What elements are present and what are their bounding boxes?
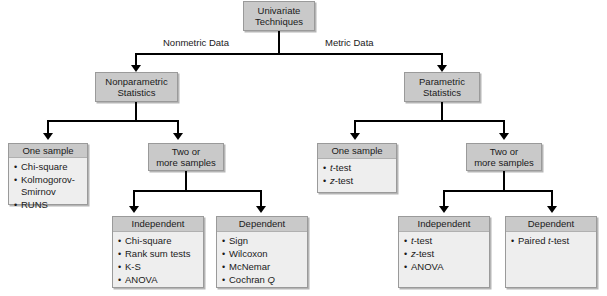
node-nonparametric-statistics-label: Nonparametric Statistics	[96, 73, 177, 101]
arrow-to-np-dependent	[256, 206, 266, 213]
node-nonparametric-statistics: Nonparametric Statistics	[95, 72, 178, 102]
arrow-to-p-two-or-more	[499, 133, 509, 140]
list-item: Sign	[222, 235, 307, 247]
list-item: Chi-square	[14, 161, 87, 173]
list-item: Paired t-test	[511, 235, 596, 247]
edge-label-metric-data: Metric Data	[325, 37, 374, 48]
box-parametric-independent: Independent t-test z-test ANOVA	[398, 216, 490, 288]
box-nonparametric-one-sample-items: Chi-square Kolmogorov- Smirnov RUNS	[9, 158, 87, 212]
box-parametric-independent-items: t-test z-test ANOVA	[399, 232, 489, 274]
list-item: Kolmogorov- Smirnov	[14, 174, 87, 198]
node-parametric-statistics: Parametric Statistics	[404, 72, 480, 102]
arrow-to-p-dependent	[547, 206, 557, 213]
box-parametric-independent-title: Independent	[399, 217, 489, 232]
box-parametric-one-sample-title: One sample	[318, 144, 396, 159]
list-item: Rank sum tests	[118, 248, 203, 260]
box-nonparametric-dependent: Dependent Sign Wilcoxon McNemar Cochran …	[216, 216, 308, 288]
list-item: K-S	[118, 261, 203, 273]
arrow-to-parametric	[437, 65, 447, 72]
arrow-to-p-independent	[439, 206, 449, 213]
node-univariate-techniques: Univariate Techniques	[243, 1, 315, 31]
box-parametric-dependent-items: Paired t-test	[506, 232, 596, 248]
arrow-to-np-two-or-more	[173, 133, 183, 140]
node-parametric-statistics-label: Parametric Statistics	[405, 73, 479, 101]
box-nonparametric-two-or-more-title: Two or more samples	[149, 144, 223, 170]
connector-nonparametric-split-bar	[47, 120, 179, 122]
connector-nonparametric-stem	[135, 102, 137, 121]
list-item: z-test	[404, 248, 489, 260]
box-nonparametric-independent: Independent Chi-square Rank sum tests K-…	[112, 216, 204, 288]
list-item: t-test	[323, 162, 396, 174]
arrow-to-np-one-sample	[43, 133, 53, 140]
list-item: t-test	[404, 235, 489, 247]
list-item: RUNS	[14, 199, 87, 211]
list-item: McNemar	[222, 261, 307, 273]
arrow-to-nonparametric	[131, 65, 141, 72]
connector-np-twoormore-stem	[185, 171, 187, 192]
box-nonparametric-one-sample: One sample Chi-square Kolmogorov- Smirno…	[8, 143, 88, 205]
list-item: ANOVA	[118, 274, 203, 286]
connector-np-twoormore-split-bar	[133, 190, 262, 192]
box-nonparametric-one-sample-title: One sample	[9, 144, 87, 158]
box-nonparametric-independent-items: Chi-square Rank sum tests K-S ANOVA	[113, 232, 203, 287]
connector-root-stem	[278, 31, 280, 54]
box-nonparametric-dependent-items: Sign Wilcoxon McNemar Cochran Q	[217, 232, 307, 287]
connector-parametric-split-bar	[354, 120, 505, 122]
box-parametric-two-or-more: Two or more samples	[466, 143, 542, 171]
edge-label-nonmetric-data: Nonmetric Data	[163, 37, 229, 48]
box-parametric-two-or-more-title: Two or more samples	[467, 144, 541, 170]
list-item: Cochran Q	[222, 274, 307, 286]
list-item: Wilcoxon	[222, 248, 307, 260]
connector-top-split-bar	[135, 53, 443, 55]
box-nonparametric-dependent-title: Dependent	[217, 217, 307, 232]
box-parametric-one-sample: One sample t-test z-test	[317, 143, 397, 193]
connector-parametric-stem	[441, 102, 443, 121]
box-parametric-one-sample-items: t-test z-test	[318, 159, 396, 188]
list-item: Chi-square	[118, 235, 203, 247]
arrow-to-p-one-sample	[350, 133, 360, 140]
list-item: z-test	[323, 175, 396, 187]
box-parametric-dependent: Dependent Paired t-test	[505, 216, 597, 288]
list-item: ANOVA	[404, 261, 489, 273]
node-univariate-techniques-label: Univariate Techniques	[244, 2, 314, 30]
box-nonparametric-two-or-more: Two or more samples	[148, 143, 224, 171]
box-parametric-dependent-title: Dependent	[506, 217, 596, 232]
arrow-to-np-independent	[129, 206, 139, 213]
box-nonparametric-independent-title: Independent	[113, 217, 203, 232]
connector-p-twoormore-stem	[503, 171, 505, 192]
univariate-techniques-diagram: Univariate Techniques Nonmetric Data Met…	[0, 0, 607, 296]
connector-p-twoormore-split-bar	[443, 190, 553, 192]
